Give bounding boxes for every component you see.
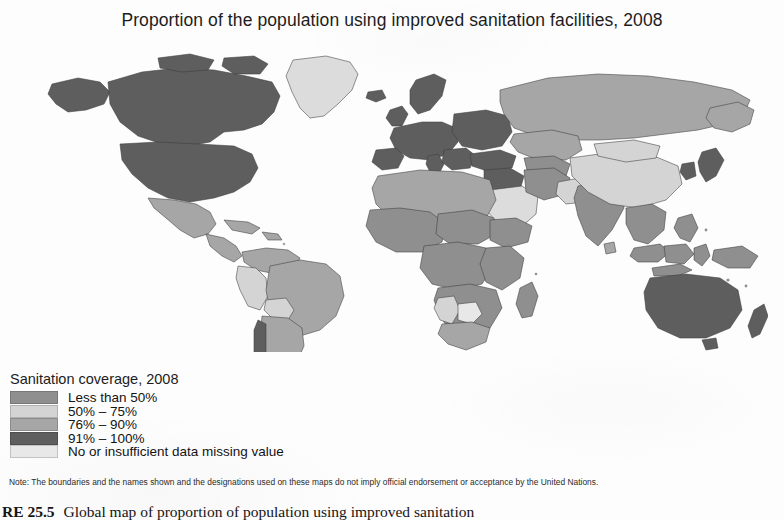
legend-item: No or insufficient data missing value	[10, 445, 440, 459]
region-south-africa	[438, 322, 490, 350]
legend-item: 76% – 90%	[10, 418, 440, 432]
region-canada-arctic-1	[158, 54, 214, 72]
region-central-america	[206, 234, 242, 262]
region-greenland	[286, 56, 358, 118]
region-island-speck-3	[705, 229, 708, 232]
region-island-speck-1	[726, 278, 729, 281]
region-caribbean-cuba	[224, 220, 260, 234]
region-indochina	[626, 204, 666, 244]
region-uk-ireland	[386, 106, 408, 126]
figure-caption-text: Global map of proportion of population u…	[64, 503, 475, 520]
region-korea	[680, 162, 696, 180]
region-sri-lanka	[604, 242, 616, 254]
world-map-svg	[38, 52, 768, 352]
legend-label: Less than 50%	[68, 391, 157, 405]
page-title: Proportion of the population using impro…	[0, 10, 784, 31]
region-eastern-europe	[452, 110, 512, 150]
region-alaska	[48, 78, 110, 112]
region-east-africa	[480, 246, 524, 290]
figure-caption-number: RE 25.5	[2, 503, 55, 520]
region-papua-new-guinea	[712, 246, 758, 268]
legend-swatch	[10, 405, 58, 418]
legend-label: 76% – 90%	[68, 418, 137, 432]
region-united-states	[120, 142, 258, 202]
figure-caption: RE 25.5Global map of proportion of popul…	[2, 503, 782, 520]
region-russia	[500, 74, 750, 140]
legend-label: No or insufficient data missing value	[68, 445, 284, 459]
region-caribbean-hispaniola	[262, 232, 282, 240]
legend-title: Sanitation coverage, 2008	[10, 371, 440, 387]
region-philippines	[674, 214, 698, 242]
region-indonesia-borneo	[664, 244, 694, 264]
legend-swatch	[10, 432, 58, 445]
legend-item: 91% – 100%	[10, 432, 440, 446]
region-canada	[108, 68, 280, 146]
region-sulawesi	[694, 244, 710, 266]
region-island-speck-5	[283, 243, 286, 246]
region-australia	[644, 274, 742, 338]
legend-item: 50% – 75%	[10, 405, 440, 419]
legend-swatch	[10, 418, 58, 431]
figure-page: Proportion of the population using impro…	[0, 0, 784, 520]
legend-item: Less than 50%	[10, 391, 440, 405]
region-mexico	[148, 198, 216, 238]
region-chile-strip	[254, 320, 266, 352]
map-landmasses	[48, 54, 768, 352]
region-peru-ecuador	[236, 266, 268, 310]
region-new-zealand	[748, 304, 768, 338]
region-island-speck-4	[535, 273, 538, 276]
legend-swatch	[10, 445, 58, 458]
region-iceland	[366, 90, 386, 102]
region-island-speck-2	[745, 285, 748, 288]
region-tasmania	[702, 338, 718, 350]
legend-label: 91% – 100%	[68, 432, 145, 446]
map-legend: Sanitation coverage, 2008 Less than 50% …	[10, 371, 440, 459]
world-map	[38, 52, 768, 352]
region-japan	[698, 148, 724, 182]
region-iberia	[372, 148, 404, 170]
region-kazakhstan	[510, 130, 582, 160]
map-note: Note: The boundaries and the names shown…	[9, 477, 598, 488]
legend-swatch	[10, 391, 58, 404]
region-scandinavia	[410, 74, 446, 114]
region-canada-arctic-2	[222, 56, 268, 74]
region-madagascar	[516, 282, 538, 318]
legend-label: 50% – 75%	[68, 405, 137, 419]
